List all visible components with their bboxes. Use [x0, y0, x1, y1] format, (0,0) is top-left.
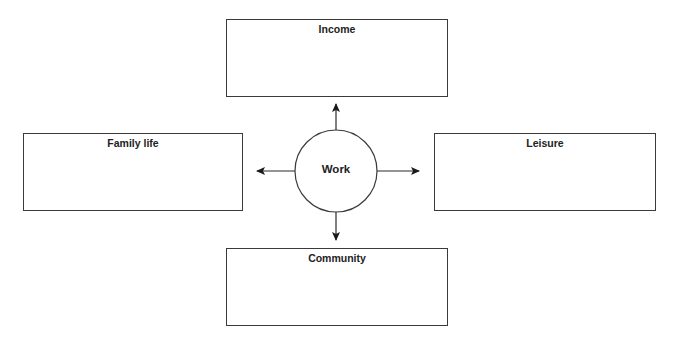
node-community-label: Community: [227, 252, 447, 264]
node-income: Income: [226, 19, 448, 97]
node-income-label: Income: [227, 23, 447, 35]
node-family-life: Family life: [23, 133, 243, 211]
node-leisure: Leisure: [434, 133, 656, 211]
node-community: Community: [226, 248, 448, 326]
node-leisure-label: Leisure: [435, 137, 655, 149]
node-family-life-label: Family life: [24, 137, 242, 149]
work-label: Work: [296, 163, 376, 175]
